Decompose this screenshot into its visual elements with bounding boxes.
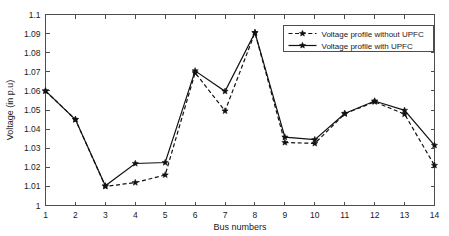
y-tick-label: 1.04: [24, 124, 41, 134]
y-axis-title: Voltage (in p.u): [5, 80, 15, 141]
x-tick-label: 7: [223, 210, 228, 220]
x-tick-label: 1: [43, 210, 48, 220]
data-point-marker: [102, 183, 108, 189]
x-tick-label: 11: [340, 210, 349, 220]
data-point-marker: [222, 108, 228, 114]
x-axis-title: Bus numbers: [213, 222, 267, 232]
y-tick-label: 1.06: [24, 86, 41, 96]
x-tick-label: 13: [400, 210, 410, 220]
x-tick-label: 5: [163, 210, 168, 220]
y-tick-label: 1.07: [24, 67, 41, 77]
y-tick-label: 1.08: [24, 48, 41, 58]
x-tick-label: 3: [103, 210, 108, 220]
series-line-without-upfc: [46, 33, 435, 187]
y-tick-label: 1.01: [24, 181, 41, 191]
data-point-marker: [162, 159, 168, 165]
x-tick-label: 2: [73, 210, 78, 220]
data-point-marker: [132, 179, 138, 185]
y-tick-label: 1.09: [24, 29, 41, 39]
legend-label: Voltage profile with UPFC: [322, 42, 413, 51]
x-tick-label: 9: [283, 210, 288, 220]
y-tick-label: 1.02: [24, 162, 41, 172]
data-point-marker: [222, 88, 228, 94]
x-tick-label: 4: [133, 210, 138, 220]
x-tick-label: 12: [370, 210, 380, 220]
voltage-profile-chart-figure: 11.011.021.031.041.051.061.071.081.091.1…: [0, 0, 449, 236]
y-tick-label: 1.1: [29, 10, 41, 20]
x-tick-label: 10: [310, 210, 320, 220]
legend-label: Voltage profile without UPFC: [322, 30, 424, 39]
data-point-marker: [162, 172, 168, 178]
y-tick-label: 1.05: [24, 105, 41, 115]
x-tick-label: 8: [253, 210, 258, 220]
y-tick-label: 1: [36, 201, 41, 211]
series-line-with-upfc: [46, 33, 435, 186]
x-tick-label: 6: [193, 210, 198, 220]
data-point-marker: [282, 134, 288, 140]
chart-canvas: 11.011.021.031.041.051.061.071.081.091.1…: [0, 0, 449, 236]
y-tick-label: 1.03: [24, 143, 41, 153]
x-tick-label: 14: [430, 210, 440, 220]
data-point-marker: [252, 29, 258, 35]
